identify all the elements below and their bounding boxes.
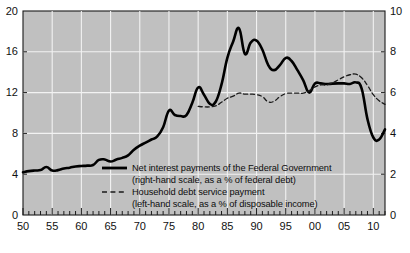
x-axis-tick-label: 95: [276, 221, 296, 232]
legend-entry-2-line-2: (left-hand scale, as a % of disposable i…: [132, 199, 318, 209]
x-axis-tick-label: 55: [42, 221, 62, 232]
x-axis-tick-label: 10: [363, 221, 383, 232]
x-axis-tick-label: 80: [188, 221, 208, 232]
chart-canvas: [0, 0, 410, 253]
y-axis-right-tick-label: 0: [390, 210, 410, 221]
x-axis-tick-label: 70: [130, 221, 150, 232]
x-axis-tick-label: 05: [334, 221, 354, 232]
y-axis-left-tick-label: 12: [0, 87, 18, 98]
x-axis-tick-label: 75: [159, 221, 179, 232]
legend-entry-1-line-2: (right-hand scale, as a % of federal deb…: [132, 175, 296, 185]
y-axis-left-tick-label: 4: [0, 169, 18, 180]
x-axis-tick-label: 90: [247, 221, 267, 232]
x-axis-tick-label: 50: [13, 221, 33, 232]
y-axis-right-tick-label: 10: [390, 6, 410, 17]
chart-figure: 048121620 0246810 5055606570758085909500…: [0, 0, 410, 253]
x-axis-tick-label: 65: [101, 221, 121, 232]
x-axis-tick-label: 60: [71, 221, 91, 232]
legend-entry-1-line-1: Net interest payments of the Federal Gov…: [132, 163, 331, 173]
y-axis-left-tick-label: 16: [0, 46, 18, 57]
x-axis-tick-label: 00: [305, 221, 325, 232]
y-axis-right-tick-label: 8: [390, 46, 410, 57]
legend-entry-2-line-1: Household debt service payment: [132, 187, 264, 197]
y-axis-left-tick-label: 8: [0, 128, 18, 139]
y-axis-right-tick-label: 4: [390, 128, 410, 139]
y-axis-left-tick-label: 0: [0, 210, 18, 221]
y-axis-left-tick-label: 20: [0, 6, 18, 17]
y-axis-right-tick-label: 2: [390, 169, 410, 180]
x-axis-tick-label: 85: [217, 221, 237, 232]
y-axis-right-tick-label: 6: [390, 87, 410, 98]
